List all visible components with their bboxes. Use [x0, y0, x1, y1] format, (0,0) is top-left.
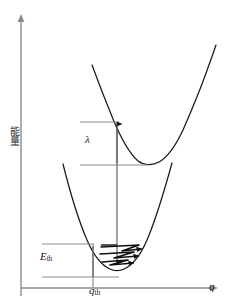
- energy-axis-arrowhead: [18, 14, 25, 22]
- relaxation-zigzag-1: [101, 245, 141, 251]
- x-axis-label: q: [209, 281, 215, 292]
- relaxation-zigzag-2: [100, 252, 138, 258]
- energy-diagram-figure: 能量 q λ Eth qth: [0, 0, 226, 304]
- y-axis-label: 能量: [2, 126, 18, 146]
- activation-energy-label: Eth: [40, 251, 52, 263]
- plot-canvas: [0, 0, 226, 304]
- eth-symbol: E: [40, 250, 47, 262]
- relaxation-zigzag-3: [102, 260, 133, 265]
- excited-state-parabola: [92, 45, 216, 165]
- potential-energy-curves: [63, 45, 216, 271]
- qth-subscript: th: [95, 288, 100, 297]
- transition-coordinate-label: qth: [89, 285, 100, 297]
- lambda-label: λ: [85, 134, 90, 145]
- arrows-group: [93, 124, 141, 277]
- eth-subscript: th: [47, 254, 52, 263]
